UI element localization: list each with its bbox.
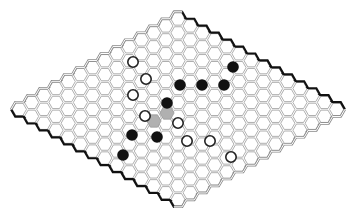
hex-cell[interactable] — [244, 68, 258, 80]
hex-cell[interactable] — [232, 131, 246, 143]
hex-cell[interactable] — [49, 96, 63, 108]
hex-cell[interactable] — [98, 96, 112, 108]
hex-cell[interactable] — [195, 55, 209, 67]
hex-cell[interactable] — [147, 152, 161, 164]
hex-cell[interactable] — [244, 124, 258, 136]
hex-cell[interactable] — [220, 96, 234, 108]
hex-cell[interactable] — [110, 131, 124, 143]
hex-cell[interactable] — [61, 89, 75, 101]
hex-cell[interactable] — [122, 110, 136, 122]
hex-cell[interactable] — [73, 110, 87, 122]
hex-cell[interactable] — [208, 103, 222, 115]
hex-cell[interactable] — [61, 103, 75, 115]
hex-cell[interactable] — [159, 75, 173, 87]
hex-cell[interactable] — [134, 159, 148, 171]
hex-cell[interactable] — [110, 103, 124, 115]
hex-cell[interactable] — [195, 96, 209, 108]
hex-cell[interactable] — [171, 96, 185, 108]
hex-cell[interactable] — [159, 34, 173, 46]
hex-cell[interactable] — [171, 152, 185, 164]
hex-cell[interactable] — [37, 103, 51, 115]
hex-cell[interactable] — [147, 96, 161, 108]
hex-cell[interactable] — [49, 110, 63, 122]
hex-cell[interactable] — [183, 159, 197, 171]
hex-cell[interactable] — [244, 82, 258, 94]
hex-cell[interactable] — [159, 62, 173, 74]
hex-cell[interactable] — [98, 124, 112, 136]
hex-cell[interactable] — [281, 103, 295, 115]
hex-cell[interactable] — [61, 117, 75, 129]
hex-cell[interactable] — [159, 48, 173, 60]
hex-cell[interactable] — [232, 103, 246, 115]
hex-cell[interactable] — [171, 180, 185, 192]
hex-cell[interactable] — [195, 110, 209, 122]
hex-cell[interactable] — [171, 55, 185, 67]
hex-cell[interactable] — [220, 124, 234, 136]
hex-cell[interactable] — [171, 166, 185, 178]
hex-cell[interactable] — [220, 110, 234, 122]
hex-cell[interactable] — [110, 117, 124, 129]
hex-cell[interactable] — [171, 41, 185, 53]
hex-cell[interactable] — [159, 173, 173, 185]
hex-cell[interactable] — [183, 173, 197, 185]
hex-cell[interactable] — [171, 27, 185, 39]
hex-cell[interactable] — [208, 62, 222, 74]
hex-cell[interactable] — [73, 124, 87, 136]
hex-cell[interactable] — [208, 89, 222, 101]
hex-cell[interactable] — [305, 103, 319, 115]
hex-cell[interactable] — [159, 159, 173, 171]
hex-cell[interactable] — [208, 117, 222, 129]
hex-cell[interactable] — [86, 89, 100, 101]
hex-cell[interactable] — [110, 89, 124, 101]
hex-cell[interactable] — [147, 166, 161, 178]
hex-cell[interactable] — [195, 41, 209, 53]
hex-cell[interactable] — [86, 131, 100, 143]
hex-cell[interactable] — [98, 82, 112, 94]
hex-cell[interactable] — [232, 89, 246, 101]
hex-cell[interactable] — [220, 138, 234, 150]
hex-cell[interactable] — [73, 96, 87, 108]
hex-cell[interactable] — [256, 103, 270, 115]
hex-cell[interactable] — [183, 145, 197, 157]
hex-cell[interactable] — [256, 89, 270, 101]
hex-cell[interactable] — [147, 55, 161, 67]
hex-cell[interactable] — [183, 48, 197, 60]
hex-cell[interactable] — [281, 117, 295, 129]
hex-cell[interactable] — [183, 62, 197, 74]
hex-cell[interactable] — [183, 34, 197, 46]
hex-cell[interactable] — [110, 75, 124, 87]
hex-cell[interactable] — [244, 96, 258, 108]
hex-cell[interactable] — [293, 110, 307, 122]
board-cells[interactable] — [12, 13, 343, 206]
hex-cell[interactable] — [98, 138, 112, 150]
hex-cell[interactable] — [256, 117, 270, 129]
hex-cell[interactable] — [195, 68, 209, 80]
hex-cell[interactable] — [86, 75, 100, 87]
hex-cell[interactable] — [195, 152, 209, 164]
hex-cell[interactable] — [183, 89, 197, 101]
hex-cell[interactable] — [147, 41, 161, 53]
hex-cell[interactable] — [281, 89, 295, 101]
hex-cell[interactable] — [256, 75, 270, 87]
hex-cell[interactable] — [98, 68, 112, 80]
hex-cell[interactable] — [183, 103, 197, 115]
hex-cell[interactable] — [232, 117, 246, 129]
hex-cell[interactable] — [269, 124, 283, 136]
hex-cell[interactable] — [98, 110, 112, 122]
hex-cell[interactable] — [208, 159, 222, 171]
hex-board[interactable] — [0, 0, 355, 221]
hex-cell[interactable] — [183, 117, 197, 129]
hex-cell[interactable] — [195, 124, 209, 136]
hex-cell[interactable] — [110, 62, 124, 74]
hex-cell[interactable] — [159, 145, 173, 157]
hex-cell[interactable] — [208, 48, 222, 60]
hex-cell[interactable] — [232, 75, 246, 87]
hex-cell[interactable] — [134, 145, 148, 157]
hex-cell[interactable] — [293, 96, 307, 108]
hex-cell[interactable] — [256, 131, 270, 143]
hex-cell[interactable] — [73, 82, 87, 94]
hex-cell[interactable] — [122, 68, 136, 80]
hex-cell[interactable] — [269, 82, 283, 94]
hex-cell[interactable] — [244, 110, 258, 122]
hex-cell[interactable] — [86, 117, 100, 129]
